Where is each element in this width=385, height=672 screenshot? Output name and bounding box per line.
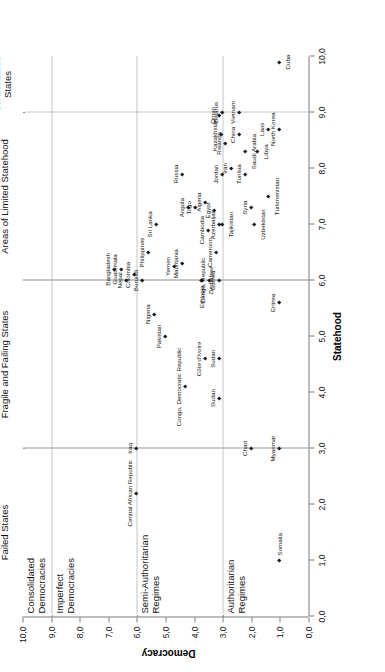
data-point[interactable] [180, 171, 185, 176]
data-point-label: Guatemala [110, 254, 117, 284]
y-tick [79, 617, 80, 622]
data-point-label: Myanmar [268, 435, 275, 461]
data-point-label: Rwanda [214, 131, 221, 154]
y-tick [251, 617, 252, 622]
x-tick [309, 559, 314, 560]
data-point-label: Central African Republic [125, 460, 132, 526]
y-tick-label: 3,0 [217, 626, 227, 638]
data-point-label: Iraq [125, 443, 132, 454]
x-tick-label: 9,0 [316, 106, 326, 118]
y-tick [222, 617, 223, 622]
data-point[interactable] [203, 356, 208, 361]
x-tick [309, 111, 314, 112]
data-point[interactable] [266, 194, 271, 199]
data-point-label: Turkmenistan [272, 177, 279, 214]
data-point[interactable] [214, 250, 219, 255]
y-tick-label: 1,0 [274, 626, 284, 638]
data-point[interactable] [277, 446, 282, 451]
data-point[interactable] [248, 205, 253, 210]
x-tick [309, 279, 314, 280]
data-point-label: Vietnam [228, 101, 235, 124]
band-label-line: States [1, 56, 12, 111]
y-tick-label: 8,0 [74, 626, 84, 638]
data-point[interactable] [277, 558, 282, 563]
data-point[interactable] [145, 250, 150, 255]
y-tick-label: 10,0 [17, 626, 27, 643]
data-point[interactable] [154, 222, 159, 227]
y-tick-label: 4,0 [189, 626, 199, 638]
data-point[interactable] [237, 110, 242, 115]
y-axis-title: Democracy [141, 647, 195, 658]
data-point[interactable] [118, 266, 123, 271]
data-point-label: Somalia [276, 533, 283, 555]
data-point[interactable] [203, 199, 208, 204]
x-tick [309, 335, 314, 336]
x-tick-label: 7,0 [316, 218, 326, 230]
data-point[interactable] [277, 300, 282, 305]
data-point[interactable] [134, 490, 139, 495]
y-tick [165, 617, 166, 622]
x-tick-label: 10,0 [316, 48, 326, 65]
data-point-label: Cameroon [205, 238, 212, 267]
x-tick-label: 6,0 [316, 274, 326, 286]
y-tick [279, 617, 280, 622]
data-point-label: Zimbabwe [206, 266, 213, 295]
data-point-label: Libya [261, 144, 268, 159]
data-point-label: Russia [171, 164, 178, 183]
chart-rotation-wrapper: Failed StatesFragile and Failing StatesA… [0, 0, 385, 672]
data-point[interactable] [223, 140, 228, 145]
data-point-label: Jordan [211, 164, 218, 183]
data-point-label: Uzbekistan [258, 209, 265, 240]
statehood-band-label: Fragile and Failing States [0, 310, 9, 418]
data-point[interactable] [243, 171, 248, 176]
x-tick [309, 55, 314, 56]
scatter-chart-figure: Failed StatesFragile and Failing StatesA… [0, 0, 385, 672]
statehood-band-label: ConsolidatedStates [0, 56, 12, 111]
statehood-band-label: Areas of Limited Statehood [0, 139, 9, 254]
x-tick [309, 391, 314, 392]
data-point-label: Côte d'Ivoire [194, 341, 201, 376]
data-point[interactable] [217, 278, 222, 283]
x-tick [309, 615, 314, 616]
data-point-label: Tajikistan [226, 211, 233, 236]
data-point[interactable] [237, 132, 242, 137]
data-point[interactable] [180, 261, 185, 266]
y-tick [108, 617, 109, 622]
data-point-label: Saudi Arabia [249, 134, 256, 169]
x-tick-label: 1,0 [316, 554, 326, 566]
x-tick [309, 167, 314, 168]
data-point[interactable] [217, 395, 222, 400]
data-point[interactable] [134, 446, 139, 451]
data-point-label: Ethiopia [197, 285, 204, 307]
data-point[interactable] [243, 149, 248, 154]
data-point-label: Sudan [208, 349, 215, 367]
x-axis-title: Statehood [331, 56, 342, 616]
data-point[interactable] [151, 311, 156, 316]
x-tick-label: 3,0 [316, 442, 326, 454]
data-point[interactable] [251, 222, 256, 227]
x-tick-label: 0,0 [316, 610, 326, 622]
statehood-band-label: Failed States [0, 504, 9, 559]
x-tick [309, 447, 314, 448]
data-point[interactable] [277, 59, 282, 64]
x-tick [309, 223, 314, 224]
data-point[interactable] [277, 126, 282, 131]
x-tick [309, 503, 314, 504]
data-point[interactable] [140, 278, 145, 283]
data-point[interactable] [217, 356, 222, 361]
data-point[interactable] [228, 166, 233, 171]
data-point-label: Bangladesh [103, 252, 110, 285]
y-tick [136, 617, 137, 622]
data-point[interactable] [248, 446, 253, 451]
data-point[interactable] [163, 334, 168, 339]
data-point[interactable] [183, 384, 188, 389]
data-point-label: Angola [177, 198, 184, 217]
data-point-label: Pakistan [154, 324, 161, 348]
y-tick [308, 617, 309, 622]
data-point-label: Iran [220, 163, 227, 174]
x-tick-label: 8,0 [316, 162, 326, 174]
data-point-label: Yemen [163, 256, 170, 275]
y-tick-label: 7,0 [103, 626, 113, 638]
x-tick-label: 4,0 [316, 386, 326, 398]
data-point-label: Colombia [123, 261, 130, 287]
